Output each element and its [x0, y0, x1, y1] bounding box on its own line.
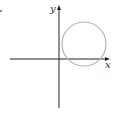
coordinate-diagram: y x [0, 0, 115, 115]
y-axis-arrow-icon [57, 5, 61, 10]
x-axis-label: x [105, 59, 111, 70]
y-axis-label: y [49, 3, 56, 14]
corner-dot [0, 10, 2, 12]
